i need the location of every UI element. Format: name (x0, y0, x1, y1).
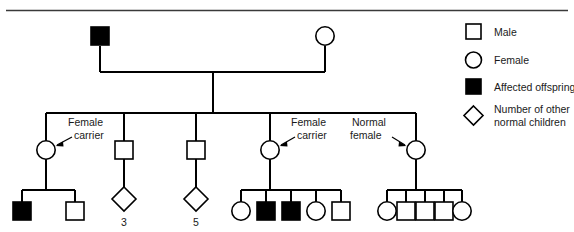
gen3-b-count-label: 3 (121, 216, 127, 228)
legend-other-children-label-line2: normal children (494, 116, 566, 128)
gen3-e-male-2-symbol (416, 202, 434, 220)
gen3-d-female-2-symbol (307, 202, 325, 220)
legend: Male Female Affected offspring Number of… (464, 24, 574, 128)
legend-male-icon (466, 24, 481, 39)
legend-female-label: Female (494, 54, 529, 66)
gen3-d-affected-male-1-symbol (257, 202, 275, 220)
annotation-carrier-mid-line2: carrier (297, 129, 327, 141)
annotation-normal-female-line2: female (350, 129, 382, 141)
legend-other-children-label-line1: Number of other (494, 103, 570, 115)
pedigree-diagram: Female carrier Female carrier Normal fem… (0, 0, 574, 232)
gen3-c-other-children-diamond (184, 187, 208, 211)
legend-male-label: Male (494, 26, 517, 38)
annotation-carrier-left-line1: Female (68, 116, 103, 128)
gen3-d-normal-male-symbol (332, 202, 350, 220)
annotation-normal-female-arrow-line (392, 137, 405, 145)
annotation-normal-female-line1: Normal (352, 116, 386, 128)
gen3-d-female-1-symbol (232, 202, 250, 220)
legend-other-children-icon (464, 106, 483, 125)
pedigree-figure: Female carrier Female carrier Normal fem… (0, 0, 574, 232)
legend-affected-icon (466, 79, 481, 94)
gen3-d-affected-male-2-symbol (282, 202, 300, 220)
gen1-affected-male-symbol (91, 27, 109, 45)
annotation-carrier-mid-arrow-line (281, 137, 295, 145)
gen2-male-2-symbol (187, 141, 205, 159)
gen3-a-affected-male-symbol (13, 202, 31, 220)
annotation-normal-female-arrow-head (399, 142, 407, 147)
legend-affected-label: Affected offspring (494, 81, 574, 93)
gen3-c-count-label: 5 (193, 216, 199, 228)
annotation-carrier-left-line2: carrier (74, 129, 104, 141)
gen1-normal-female-symbol (316, 27, 334, 45)
gen2-normal-female-symbol (407, 141, 425, 159)
annotation-carrier-mid-line1: Female (291, 116, 326, 128)
legend-female-icon (466, 52, 482, 68)
annotation-carrier-mid-arrow-head (280, 142, 288, 147)
gen2-female-carrier-mid-symbol (261, 141, 279, 159)
gen3-e-female-2-symbol (453, 202, 471, 220)
gen3-e-male-1-symbol (397, 202, 415, 220)
gen3-e-male-3-symbol (435, 202, 453, 220)
gen3-b-other-children-diamond (112, 187, 136, 211)
gen2-male-1-symbol (115, 141, 133, 159)
gen2-female-carrier-left-symbol (37, 141, 55, 159)
gen3-a-normal-male-symbol (66, 202, 84, 220)
annotation-carrier-left-arrow-head (56, 142, 64, 147)
gen3-e-female-1-symbol (378, 202, 396, 220)
